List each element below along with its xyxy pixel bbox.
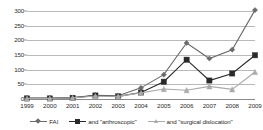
data-point xyxy=(230,47,235,52)
legend-item-0[interactable]: FAI xyxy=(30,118,58,125)
y-axis-tick-mark xyxy=(24,84,27,85)
data-point xyxy=(252,69,257,74)
x-axis-tick-label: 2008 xyxy=(226,102,239,109)
y-axis-tick-label: 150 xyxy=(14,52,24,58)
legend-label: and "surgical dislocation" xyxy=(167,118,233,125)
x-axis-tick-label: 2007 xyxy=(203,102,216,109)
y-axis-tick-label: 250 xyxy=(14,23,24,29)
data-point xyxy=(252,8,257,13)
legend-item-1[interactable]: and "arthroscopic" xyxy=(69,118,136,125)
legend-label: and "arthroscopic" xyxy=(88,118,136,125)
series-fai xyxy=(24,8,257,101)
data-point xyxy=(252,53,257,58)
x-axis-tick-label: 2002 xyxy=(89,102,102,109)
x-axis-tick-label: 2006 xyxy=(180,102,193,109)
y-axis-tick-mark xyxy=(24,99,27,100)
data-point xyxy=(207,78,212,83)
y-axis: 050100150200250300 xyxy=(0,11,24,99)
y-axis-tick-label: 200 xyxy=(14,37,24,43)
y-axis-tick-label: 100 xyxy=(14,67,24,73)
data-point xyxy=(138,85,143,90)
legend-swatch-icon xyxy=(69,118,86,125)
legend-item-2[interactable]: and "surgical dislocation" xyxy=(148,118,233,125)
y-axis-tick-mark xyxy=(24,25,27,26)
x-axis-tick-label: 2005 xyxy=(157,102,170,109)
y-axis-tick-label: 50 xyxy=(17,81,24,87)
y-axis-tick-label: 300 xyxy=(14,8,24,14)
legend-swatch-icon xyxy=(30,118,47,125)
data-point xyxy=(230,71,235,76)
y-axis-tick-mark xyxy=(24,55,27,56)
series-layer xyxy=(27,11,255,99)
x-axis-tick-label: 2009 xyxy=(248,102,261,109)
chart-legend: FAIand "arthroscopic"and "surgical dislo… xyxy=(0,115,263,127)
x-axis: 1999200020012002200320042005200620072008… xyxy=(27,102,255,112)
x-axis-tick-label: 2004 xyxy=(134,102,147,109)
x-axis-tick-label: 2000 xyxy=(43,102,56,109)
x-axis-tick-label: 2001 xyxy=(66,102,79,109)
y-axis-tick-mark xyxy=(24,40,27,41)
legend-swatch-icon xyxy=(148,118,165,125)
y-axis-tick-mark xyxy=(24,11,27,12)
x-axis-tick-label: 1999 xyxy=(20,102,33,109)
legend-label: FAI xyxy=(49,118,58,125)
y-axis-tick-mark xyxy=(24,69,27,70)
line-chart: 050100150200250300 199920002001200220032… xyxy=(0,0,263,130)
data-point xyxy=(184,57,189,62)
gridline-0 xyxy=(27,99,255,100)
x-axis-tick-label: 2003 xyxy=(112,102,125,109)
data-point xyxy=(161,79,166,84)
plot-area xyxy=(27,11,255,99)
